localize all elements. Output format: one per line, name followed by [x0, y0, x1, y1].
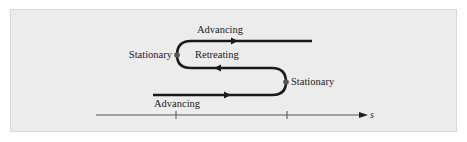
label-stationary-right: Stationary: [291, 76, 335, 87]
motion-diagram: Advancing Stationary Retreating Stationa…: [0, 0, 467, 142]
stationary-point-left: [174, 52, 180, 58]
label-advancing-bottom: Advancing: [154, 98, 201, 109]
axis-arrow-icon: [359, 112, 368, 118]
arrow-left-icon-middle: [214, 65, 221, 72]
label-advancing-top: Advancing: [197, 24, 244, 35]
axis-label-s: s: [370, 109, 374, 120]
arrow-right-icon-bottom: [224, 92, 231, 99]
stationary-point-right: [283, 79, 289, 85]
arrow-right-icon-top: [231, 38, 238, 45]
label-stationary-left: Stationary: [129, 49, 173, 60]
label-retreating: Retreating: [195, 49, 239, 60]
